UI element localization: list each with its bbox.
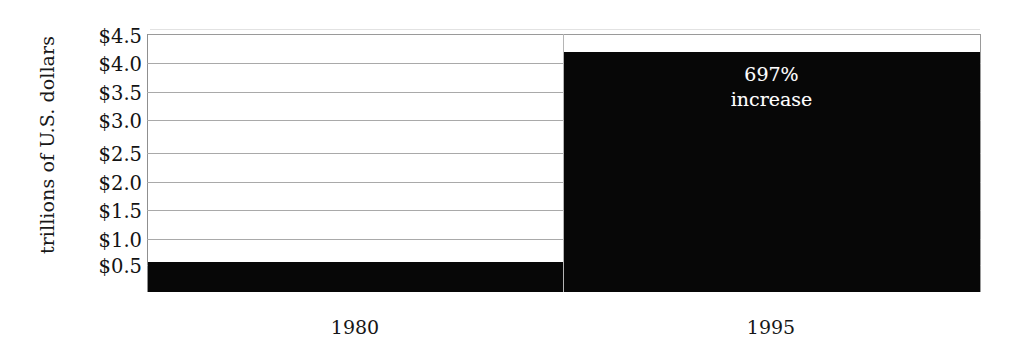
y-tick-label: $1.5 — [58, 202, 142, 222]
x-tick-label-1980: 1980 — [255, 318, 455, 337]
y-axis-tick-labels: $4.5 $4.0 $3.5 $3.0 $2.5 $2.0 $1.5 $1.0 … — [58, 0, 142, 358]
plot-border-left — [147, 34, 148, 292]
plot-area: 697% increase — [147, 34, 981, 292]
y-tick-label: $4.5 — [58, 27, 142, 47]
y-tick-label: $0.5 — [58, 257, 142, 277]
y-tick-label: $2.0 — [58, 174, 142, 194]
plot-border-top — [147, 34, 981, 35]
increase-callout: 697% increase — [563, 62, 980, 112]
plot-border-right — [980, 34, 981, 292]
increase-callout-word: increase — [563, 87, 980, 112]
bar-chart: trillions of U.S. dollars $4.5 $4.0 $3.5… — [0, 0, 1027, 358]
y-tick-label: $3.0 — [58, 112, 142, 132]
bar-1980[interactable] — [148, 262, 563, 292]
y-tick-label: $3.5 — [58, 84, 142, 104]
y-tick-label: $4.0 — [58, 55, 142, 75]
y-tick-label: $2.5 — [58, 145, 142, 165]
increase-callout-percent: 697% — [563, 62, 980, 87]
y-tick-label: $1.0 — [58, 231, 142, 251]
y-axis-title: trillions of U.S. dollars — [34, 0, 60, 295]
scan-artifact-line — [150, 29, 980, 30]
x-tick-label-1995: 1995 — [671, 318, 871, 337]
